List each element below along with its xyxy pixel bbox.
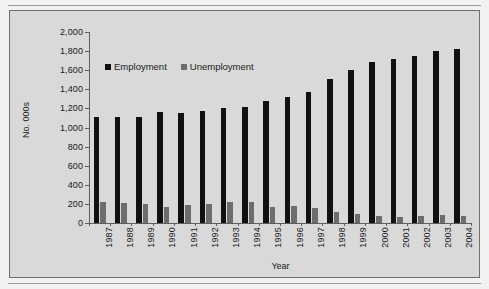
x-axis-tick-mark — [407, 223, 408, 226]
y-axis-tick-label: 600 — [68, 161, 83, 171]
bar-unemployment[interactable] — [355, 214, 361, 223]
chart-legend: EmploymentUnemployment — [105, 61, 254, 72]
x-axis-tick-label: 1988 — [125, 227, 135, 248]
x-axis-tick-label: 1987 — [104, 227, 114, 248]
bar-employment[interactable] — [157, 112, 163, 223]
bar-group — [280, 32, 301, 223]
bar-unemployment[interactable] — [312, 208, 318, 223]
bar-unemployment[interactable] — [270, 207, 276, 223]
legend-swatch-icon — [181, 64, 187, 70]
y-axis-tick-mark — [85, 128, 89, 129]
bar-unemployment[interactable] — [164, 207, 170, 223]
x-axis-tick-label: 1992 — [210, 227, 220, 248]
bar-unemployment[interactable] — [100, 202, 106, 223]
bar-group — [344, 32, 365, 223]
figure-box: 02004006008001,0001,2001,4001,6001,8002,… — [9, 10, 480, 278]
y-axis-tick-mark — [85, 32, 89, 33]
x-axis-tick-mark — [344, 223, 345, 226]
bar-group — [429, 32, 450, 223]
x-axis-tick-label: 1995 — [273, 227, 283, 248]
bar-employment[interactable] — [242, 107, 248, 223]
bar-unemployment[interactable] — [206, 204, 212, 223]
x-axis-tick-label: 2004 — [464, 227, 474, 248]
x-axis-tick-mark — [216, 223, 217, 226]
bar-employment[interactable] — [306, 92, 312, 223]
x-axis-tick-mark — [386, 223, 387, 226]
x-axis-tick-label: 2003 — [443, 227, 453, 248]
legend-entry-employment[interactable]: Employment — [105, 61, 167, 72]
y-axis-tick-label: 1,600 — [60, 65, 83, 75]
bar-unemployment[interactable] — [461, 216, 467, 223]
bar-employment[interactable] — [412, 56, 418, 223]
x-axis-tick-label: 2001 — [401, 227, 411, 248]
x-axis-tick-label: 1994 — [252, 227, 262, 248]
x-axis-tick-mark — [322, 223, 323, 226]
x-axis-tick-mark — [301, 223, 302, 226]
x-axis-tick-mark — [110, 223, 111, 226]
x-axis-tick-mark — [195, 223, 196, 226]
page-rule-bottom — [8, 283, 481, 284]
bar-unemployment[interactable] — [440, 215, 446, 223]
y-axis-tick-label: 400 — [68, 180, 83, 190]
x-axis-tick-label: 1997 — [316, 227, 326, 248]
y-axis-tick-mark — [85, 223, 89, 224]
y-axis-tick-mark — [85, 108, 89, 109]
legend-entry-unemployment[interactable]: Unemployment — [181, 61, 254, 72]
bar-unemployment[interactable] — [418, 216, 424, 223]
x-axis-tick-label: 1989 — [146, 227, 156, 248]
bar-chart: 02004006008001,0001,2001,4001,6001,8002,… — [10, 11, 479, 277]
bar-employment[interactable] — [136, 117, 142, 223]
bar-unemployment[interactable] — [121, 203, 127, 223]
y-axis-tick-label: 1,400 — [60, 84, 83, 94]
bar-unemployment[interactable] — [334, 212, 340, 223]
x-axis-tick-mark — [131, 223, 132, 226]
x-axis-tick-mark — [174, 223, 175, 226]
bar-unemployment[interactable] — [291, 206, 297, 223]
bar-unemployment[interactable] — [143, 204, 149, 223]
bar-employment[interactable] — [94, 117, 100, 223]
bar-employment[interactable] — [433, 51, 439, 223]
x-axis-tick-label: 2000 — [380, 227, 390, 248]
bar-employment[interactable] — [454, 49, 460, 223]
bar-employment[interactable] — [348, 70, 354, 223]
y-axis-tick-label: 0 — [78, 218, 83, 228]
bar-unemployment[interactable] — [397, 217, 403, 223]
y-axis-tick-mark — [85, 147, 89, 148]
y-axis-tick-label: 1,200 — [60, 103, 83, 113]
bar-employment[interactable] — [200, 111, 206, 223]
page-rule-top — [8, 5, 481, 6]
x-axis-tick-label: 1999 — [358, 227, 368, 248]
y-axis-tick-label: 200 — [68, 199, 83, 209]
bar-employment[interactable] — [178, 113, 184, 223]
x-axis-tick-label: 2002 — [422, 227, 432, 248]
x-axis-tick-mark — [471, 223, 472, 226]
bar-employment[interactable] — [115, 117, 121, 223]
bar-group — [301, 32, 322, 223]
bar-group — [407, 32, 428, 223]
x-axis-tick-mark — [259, 223, 260, 226]
bar-employment[interactable] — [327, 79, 333, 223]
y-axis-tick-mark — [85, 70, 89, 71]
bar-employment[interactable] — [263, 101, 269, 223]
bar-employment[interactable] — [285, 97, 291, 223]
legend-swatch-icon — [105, 64, 111, 70]
bar-unemployment[interactable] — [227, 202, 233, 223]
y-axis-title: No. 000s — [21, 90, 31, 150]
y-axis-tick-mark — [85, 89, 89, 90]
x-axis-tick-label: 1998 — [337, 227, 347, 248]
bar-unemployment[interactable] — [249, 202, 255, 223]
bar-unemployment[interactable] — [185, 205, 191, 223]
bar-employment[interactable] — [221, 108, 227, 223]
x-axis-tick-mark — [429, 223, 430, 226]
bar-employment[interactable] — [369, 62, 375, 223]
bar-group — [259, 32, 280, 223]
bar-group — [365, 32, 386, 223]
y-axis-tick-label: 800 — [68, 142, 83, 152]
bar-group — [322, 32, 343, 223]
bar-employment[interactable] — [391, 59, 397, 223]
x-axis-tick-mark — [238, 223, 239, 226]
x-axis-tick-label: 1996 — [295, 227, 305, 248]
legend-label: Employment — [114, 61, 167, 72]
bar-unemployment[interactable] — [376, 216, 382, 223]
x-axis-tick-mark — [153, 223, 154, 226]
